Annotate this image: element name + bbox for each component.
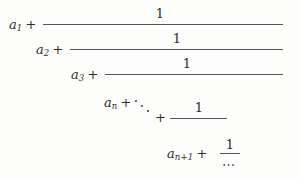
continued-fraction-expression: a1+ 1 a2+ 1 a3+ 1 an+ + 1 an+1+ 1 ⋯ <box>0 0 301 178</box>
horizontal-ellipsis-icon: ⋯ <box>222 158 236 171</box>
term-a3: a3+ <box>71 68 98 83</box>
term-an-plus-1-subscript: n+1 <box>175 152 194 162</box>
term-an-plus-1: an+1+ <box>167 147 207 162</box>
term-a1: a1+ <box>9 18 36 33</box>
numerator-level-5: 1 <box>219 138 241 151</box>
term-a2-base: a <box>36 42 44 57</box>
term-a3-base: a <box>71 67 79 82</box>
numerator-level-3: 1 <box>167 57 207 70</box>
term-a3-operator: + <box>84 67 98 82</box>
term-an-plus-1-operator: + <box>193 146 207 161</box>
term-an-base: a <box>104 95 112 110</box>
fraction-bar-level-4 <box>170 118 227 119</box>
term-an: an+ <box>104 96 131 111</box>
term-an-operator: + <box>117 95 131 110</box>
term-a2: a2+ <box>36 43 63 58</box>
fraction-bar-level-1 <box>43 24 283 25</box>
fraction-bar-level-3 <box>105 74 283 75</box>
operator-after-ellipsis: + <box>155 111 166 124</box>
numerator-level-1: 1 <box>140 7 180 20</box>
term-a2-operator: + <box>49 42 63 57</box>
numerator-level-2: 1 <box>157 32 197 45</box>
fraction-bar-level-2 <box>70 49 283 50</box>
term-a1-operator: + <box>22 17 36 32</box>
term-a1-base: a <box>9 17 17 32</box>
term-an-plus-1-base: a <box>167 146 175 161</box>
fraction-bar-level-5 <box>220 153 240 154</box>
numerator-level-4: 1 <box>179 101 219 114</box>
diagonal-ellipsis-icon <box>134 99 152 115</box>
